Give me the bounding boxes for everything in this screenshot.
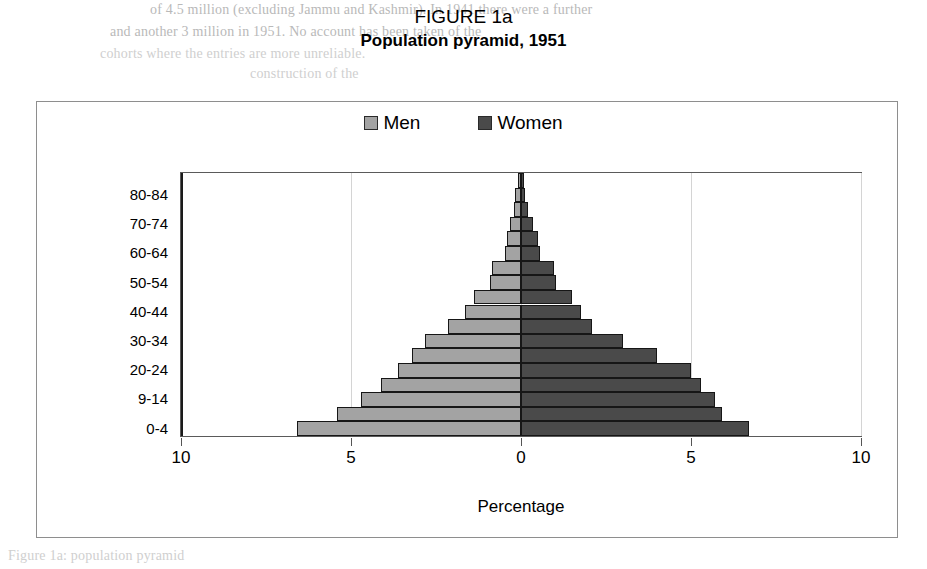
legend-swatch-women-icon	[478, 116, 492, 130]
bar-row	[181, 392, 861, 407]
bar-men[interactable]	[425, 334, 521, 349]
x-axis-tick-mark	[691, 438, 692, 446]
y-axis-tick-label: 20-24	[130, 362, 168, 377]
bar-men[interactable]	[465, 305, 521, 320]
bar-men[interactable]	[297, 421, 521, 436]
bar-women[interactable]	[521, 173, 524, 188]
bar-men[interactable]	[490, 275, 521, 290]
x-axis-tick-label: 10	[172, 448, 191, 468]
bar-women[interactable]	[521, 363, 691, 378]
x-axis-tick-label: 10	[852, 448, 871, 468]
legend-label-women: Women	[497, 112, 562, 134]
bar-women[interactable]	[521, 275, 556, 290]
x-axis-tick-label: 0	[516, 448, 525, 468]
x-axis-tick-mark	[861, 438, 862, 446]
plot-area	[180, 172, 862, 437]
bar-men[interactable]	[448, 319, 521, 334]
legend-item-men[interactable]: Men	[364, 112, 420, 134]
bar-men[interactable]	[398, 363, 521, 378]
gridline	[861, 173, 862, 436]
bar-men[interactable]	[337, 407, 521, 422]
bar-row	[181, 188, 861, 203]
bar-women[interactable]	[521, 407, 722, 422]
bar-men[interactable]	[381, 378, 521, 393]
bar-row	[181, 217, 861, 232]
bar-row	[181, 363, 861, 378]
bar-women[interactable]	[521, 202, 528, 217]
zero-axis-line	[181, 173, 183, 436]
bar-row	[181, 305, 861, 320]
x-axis-tick-mark	[351, 438, 352, 446]
bar-men[interactable]	[474, 290, 521, 305]
bar-men[interactable]	[514, 202, 521, 217]
legend-item-women[interactable]: Women	[478, 112, 562, 134]
bar-row	[181, 407, 861, 422]
figure-title: Population pyramid, 1951	[0, 31, 927, 51]
x-axis-tick-mark	[181, 438, 182, 446]
bar-row	[181, 231, 861, 246]
bar-women[interactable]	[521, 392, 715, 407]
background-line: Figure 1a: population pyramid	[8, 548, 185, 564]
bar-row	[181, 319, 861, 334]
x-axis-title: Percentage	[180, 497, 862, 517]
bar-women[interactable]	[521, 348, 657, 363]
bar-women[interactable]	[521, 319, 592, 334]
bar-women[interactable]	[521, 246, 540, 261]
bar-men[interactable]	[505, 246, 521, 261]
bar-men[interactable]	[361, 392, 521, 407]
bar-women[interactable]	[521, 334, 623, 349]
bar-row	[181, 421, 861, 436]
bar-women[interactable]	[521, 290, 572, 305]
bar-row	[181, 348, 861, 363]
bar-women[interactable]	[521, 421, 749, 436]
bar-row	[181, 202, 861, 217]
x-axis-tick-label: 5	[686, 448, 695, 468]
y-axis-tick-label: 70-74	[130, 216, 168, 231]
y-axis-tick-label: 9-14	[138, 391, 168, 406]
bar-row	[181, 290, 861, 305]
y-axis-tick-label: 0-4	[146, 421, 168, 436]
y-axis-tick-label: 40-44	[130, 304, 168, 319]
bar-row	[181, 261, 861, 276]
bar-row	[181, 275, 861, 290]
x-axis-tick-labels: 1050510	[180, 448, 862, 472]
bar-women[interactable]	[521, 305, 581, 320]
y-axis-tick-label: 30-34	[130, 333, 168, 348]
y-axis-tick-label: 50-54	[130, 275, 168, 290]
bars-layer	[181, 173, 861, 436]
bar-women[interactable]	[521, 188, 525, 203]
x-axis-tick-mark	[521, 438, 522, 446]
bar-women[interactable]	[521, 231, 538, 246]
bar-row	[181, 334, 861, 349]
bar-row	[181, 246, 861, 261]
bar-men[interactable]	[492, 261, 521, 276]
figure-label: FIGURE 1a	[0, 6, 927, 28]
y-axis-tick-label: 80-84	[130, 187, 168, 202]
chart-legend: Men Women	[0, 112, 927, 134]
legend-label-men: Men	[383, 112, 420, 134]
bar-men[interactable]	[507, 231, 521, 246]
bar-women[interactable]	[521, 217, 533, 232]
y-axis-tick-label: 60-64	[130, 245, 168, 260]
bar-women[interactable]	[521, 261, 554, 276]
bar-women[interactable]	[521, 378, 701, 393]
y-axis-tick-labels: 80-8470-7460-6450-5440-4430-3420-249-140…	[72, 172, 172, 437]
legend-swatch-men-icon	[364, 116, 378, 130]
bar-row	[181, 173, 861, 188]
bar-men[interactable]	[510, 217, 521, 232]
background-line: construction of the	[250, 66, 359, 82]
x-axis-tick-label: 5	[346, 448, 355, 468]
bar-row	[181, 378, 861, 393]
bar-men[interactable]	[412, 348, 521, 363]
